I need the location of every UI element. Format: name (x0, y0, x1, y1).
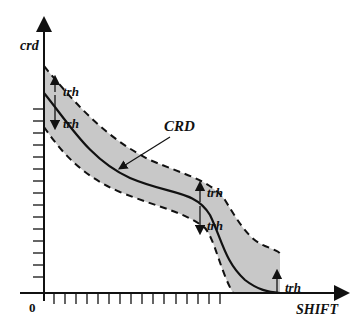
origin-label: 0 (29, 300, 36, 315)
trh-label-mid-lower: trh (207, 218, 223, 233)
trh-label-mid-upper: trh (207, 185, 223, 200)
curve-label: CRD (164, 118, 195, 134)
crd-shift-diagram: crd SHIFT 0 CRD trh trh trh trh trh (0, 0, 362, 333)
trh-label-top-left-upper: trh (63, 84, 79, 99)
tolerance-band (44, 66, 280, 293)
trh-label-end: trh (285, 280, 301, 295)
y-axis-label: crd (20, 38, 40, 53)
trh-label-top-left-lower: trh (63, 116, 79, 131)
y-axis-ticks (33, 109, 44, 277)
x-axis-label: SHIFT (296, 302, 339, 317)
x-axis-ticks (54, 293, 220, 304)
